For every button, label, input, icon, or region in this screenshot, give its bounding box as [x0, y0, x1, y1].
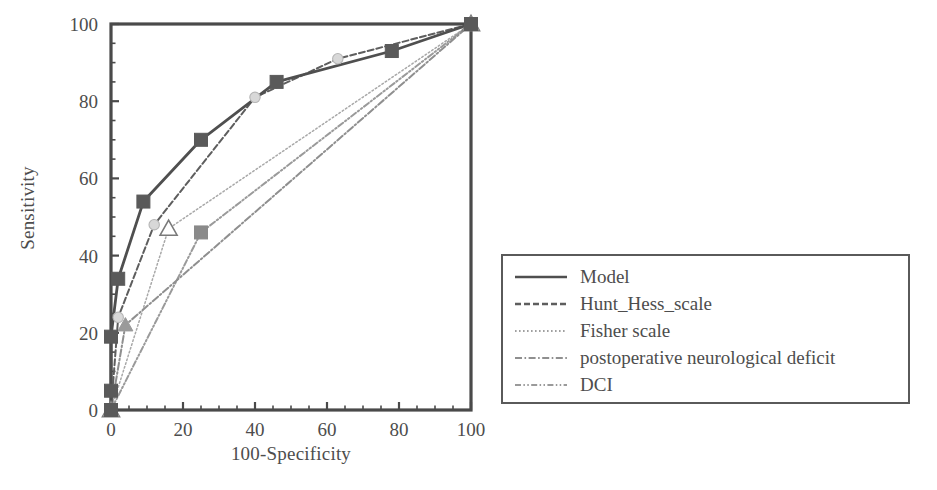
y-tick-label: 0 — [89, 400, 99, 421]
legend-swatch-dashed-icon — [514, 297, 568, 311]
legend-label-fisher-scale: Fisher scale — [580, 321, 670, 340]
y-tick-label: 80 — [79, 91, 98, 112]
data-point-marker — [105, 330, 118, 343]
data-point-marker — [195, 133, 208, 146]
x-tick-label: 80 — [390, 419, 409, 440]
data-point-marker — [250, 92, 260, 102]
data-point-marker — [105, 404, 118, 417]
legend-swatch-solid-icon — [514, 270, 568, 284]
series-line — [111, 24, 471, 410]
roc-plot-svg: 020406080100020406080100 — [0, 0, 520, 490]
legend: Model Hunt_Hess_scale Fisher scale posto… — [501, 254, 910, 404]
data-point-marker — [112, 272, 125, 285]
y-tick-label: 60 — [79, 168, 98, 189]
data-point-marker — [465, 18, 478, 31]
legend-label-hunt-hess-scale: Hunt_Hess_scale — [580, 294, 712, 313]
data-point-marker — [105, 384, 118, 397]
x-tick-label: 40 — [246, 419, 265, 440]
x-tick-label: 60 — [318, 419, 337, 440]
legend-label-model: Model — [580, 267, 630, 286]
data-point-marker — [113, 312, 123, 322]
y-tick-label: 100 — [70, 14, 99, 35]
series-line — [111, 24, 471, 410]
y-axis-title: Sensitivity — [17, 133, 39, 283]
legend-item-dci: DCI — [503, 371, 908, 398]
x-tick-label: 100 — [457, 419, 486, 440]
legend-item-model: Model — [503, 263, 908, 290]
x-tick-label: 0 — [106, 419, 116, 440]
legend-item-fisher-scale: Fisher scale — [503, 317, 908, 344]
series-line — [111, 24, 471, 410]
plot-area: 020406080100020406080100 100-Specificity… — [0, 0, 520, 490]
y-tick-label: 40 — [79, 246, 98, 267]
data-point-marker — [149, 220, 159, 230]
x-tick-label: 20 — [174, 419, 193, 440]
y-tick-label: 20 — [79, 323, 98, 344]
series-line — [111, 24, 471, 410]
data-point-marker — [195, 226, 208, 239]
legend-swatch-dotted-icon — [514, 324, 568, 338]
legend-label-postoperative-neurological-deficit: postoperative neurological deficit — [580, 348, 835, 367]
roc-curve-figure: 020406080100020406080100 100-Specificity… — [0, 0, 937, 490]
legend-swatch-dashdot-icon — [514, 351, 568, 365]
legend-label-dci: DCI — [580, 375, 613, 394]
data-point-marker — [333, 54, 343, 64]
data-point-marker — [137, 195, 150, 208]
data-point-marker — [270, 75, 283, 88]
legend-item-hunt-hess-scale: Hunt_Hess_scale — [503, 290, 908, 317]
x-axis-title: 100-Specificity — [110, 443, 472, 465]
legend-swatch-dashdotdot-icon — [514, 378, 568, 392]
data-point-marker — [385, 45, 398, 58]
series-line — [111, 24, 471, 410]
legend-item-postoperative-neurological-deficit: postoperative neurological deficit — [503, 344, 908, 371]
data-point-marker — [160, 220, 177, 235]
